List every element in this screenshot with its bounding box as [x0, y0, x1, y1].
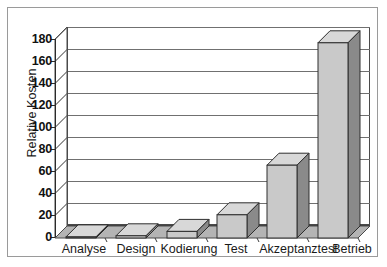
- plot-area: 180 160 140 120 100 80 60 40 20 0: [8, 8, 387, 267]
- bar-kodierung[interactable]: [167, 219, 209, 238]
- figure-frame: Relative Kosten: [7, 7, 378, 257]
- bar-analyse[interactable]: [66, 225, 108, 238]
- bar-betrieb[interactable]: [318, 31, 360, 238]
- x-tick-label-betrieb: Betrieb: [321, 242, 383, 256]
- bar-akzeptanztest[interactable]: [267, 153, 309, 238]
- bars-layer: [8, 8, 387, 267]
- chart-figure: Relative Kosten: [0, 0, 387, 267]
- bar-test[interactable]: [217, 203, 259, 238]
- bar-design[interactable]: [116, 224, 158, 238]
